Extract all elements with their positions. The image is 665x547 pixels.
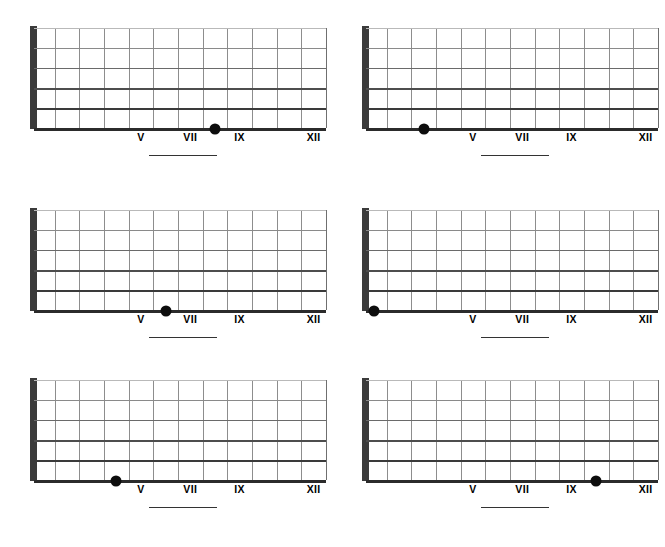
fretboard-diagram xyxy=(30,210,326,310)
answer-blank-line[interactable] xyxy=(149,155,217,156)
fretboard-exercise: VVIIIXXII xyxy=(0,352,332,547)
fret-line-8 xyxy=(559,380,560,480)
fret-line-2 xyxy=(79,210,80,310)
string-2 xyxy=(366,400,658,401)
fret-line-12 xyxy=(326,380,327,480)
fret-marker-vii: VII xyxy=(515,313,529,325)
fret-marker-xii: XII xyxy=(639,131,653,143)
fret-line-7 xyxy=(535,28,536,128)
fretboard-diagram xyxy=(362,380,658,480)
fret-line-5 xyxy=(485,28,486,128)
fret-marker-ix: IX xyxy=(566,313,577,325)
fret-marker-row: VVIIIXXII xyxy=(362,483,658,499)
fret-line-1 xyxy=(55,210,56,310)
fret-line-2 xyxy=(79,380,80,480)
fret-marker-ix: IX xyxy=(234,131,245,143)
fret-line-4 xyxy=(461,380,462,480)
fret-line-6 xyxy=(510,210,511,310)
fret-line-11 xyxy=(301,380,302,480)
fret-line-11 xyxy=(633,28,634,128)
fretboard-diagram xyxy=(362,210,658,310)
string-3 xyxy=(34,68,326,69)
fret-marker-v: V xyxy=(469,483,476,495)
string-4 xyxy=(366,88,658,90)
fret-line-12 xyxy=(326,210,327,310)
nut xyxy=(362,378,369,481)
fret-line-7 xyxy=(203,380,204,480)
answer-blank-line[interactable] xyxy=(481,155,549,156)
fret-line-5 xyxy=(153,380,154,480)
fret-line-12 xyxy=(658,210,659,310)
string-3 xyxy=(366,68,658,69)
answer-blank-line[interactable] xyxy=(481,507,549,508)
string-1 xyxy=(34,380,326,381)
fret-line-10 xyxy=(609,380,610,480)
fretboard-grid xyxy=(30,28,326,128)
fret-line-2 xyxy=(411,210,412,310)
fret-marker-vii: VII xyxy=(515,131,529,143)
string-2 xyxy=(34,230,326,231)
fret-line-6 xyxy=(510,380,511,480)
fret-marker-row: VVIIIXXII xyxy=(30,131,326,147)
nut xyxy=(362,26,369,129)
fret-line-6 xyxy=(178,28,179,128)
fret-line-12 xyxy=(326,28,327,128)
fret-line-6 xyxy=(510,28,511,128)
fretboard-grid xyxy=(362,380,658,480)
fret-line-5 xyxy=(153,28,154,128)
string-5 xyxy=(366,108,658,110)
fret-line-11 xyxy=(633,210,634,310)
answer-blank-line[interactable] xyxy=(149,507,217,508)
fret-line-5 xyxy=(153,210,154,310)
fretboard-grid xyxy=(30,210,326,310)
fret-line-8 xyxy=(559,210,560,310)
nut xyxy=(30,208,37,311)
fret-line-1 xyxy=(55,380,56,480)
fret-line-4 xyxy=(129,28,130,128)
fret-line-7 xyxy=(203,210,204,310)
fret-marker-xii: XII xyxy=(307,313,321,325)
fret-marker-vii: VII xyxy=(183,131,197,143)
fret-marker-row: VVIIIXXII xyxy=(30,483,326,499)
fretboard-grid xyxy=(30,380,326,480)
fret-line-8 xyxy=(227,210,228,310)
fret-line-3 xyxy=(436,380,437,480)
fret-line-3 xyxy=(436,28,437,128)
string-5 xyxy=(34,460,326,462)
fret-marker-row: VVIIIXXII xyxy=(362,313,658,329)
fret-line-9 xyxy=(584,28,585,128)
fret-line-2 xyxy=(411,380,412,480)
fret-line-10 xyxy=(609,28,610,128)
fret-line-4 xyxy=(461,210,462,310)
fret-line-8 xyxy=(227,28,228,128)
string-5 xyxy=(34,108,326,110)
string-4 xyxy=(34,270,326,272)
fret-marker-xii: XII xyxy=(307,131,321,143)
fret-line-7 xyxy=(535,380,536,480)
fret-marker-ix: IX xyxy=(234,313,245,325)
fret-line-10 xyxy=(277,28,278,128)
string-5 xyxy=(34,290,326,292)
string-3 xyxy=(366,420,658,421)
string-3 xyxy=(366,250,658,251)
fret-line-1 xyxy=(55,28,56,128)
fret-line-10 xyxy=(609,210,610,310)
fret-marker-vii: VII xyxy=(183,313,197,325)
fret-marker-ix: IX xyxy=(566,131,577,143)
fret-line-9 xyxy=(584,210,585,310)
fret-line-8 xyxy=(227,380,228,480)
fret-marker-vii: VII xyxy=(183,483,197,495)
fret-line-6 xyxy=(178,210,179,310)
fret-line-3 xyxy=(436,210,437,310)
fretboard-exercise: VVIIIXXII xyxy=(332,0,665,182)
nut xyxy=(30,378,37,481)
fretboard-grid xyxy=(362,210,658,310)
string-3 xyxy=(34,420,326,421)
fret-marker-vii: VII xyxy=(515,483,529,495)
answer-blank-line[interactable] xyxy=(149,337,217,338)
string-1 xyxy=(34,28,326,29)
answer-blank-line[interactable] xyxy=(481,337,549,338)
string-1 xyxy=(366,28,658,29)
fret-marker-row: VVIIIXXII xyxy=(362,131,658,147)
fret-line-1 xyxy=(387,380,388,480)
